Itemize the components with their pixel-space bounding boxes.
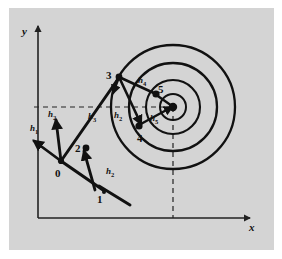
step-label-h2b: h2 — [114, 111, 122, 122]
path-1-to-2 — [84, 151, 95, 190]
step-label-h4: h4 — [138, 76, 146, 87]
point-label-1: 1 — [97, 194, 103, 205]
contour-center-dot — [169, 103, 177, 111]
point-label-2: 2 — [75, 143, 81, 154]
figure-root: y x 0 1 2 3 4 5 h1 h2 h3 h2 h2 h4 h5 — [0, 0, 282, 259]
step-label-h3: h3 — [88, 112, 96, 123]
point-label-0: 0 — [55, 168, 61, 179]
path-1-extension — [99, 186, 130, 205]
iterate-dot-4 — [135, 122, 142, 129]
optimization-contour-diagram — [0, 0, 282, 259]
point-label-3: 3 — [106, 70, 112, 81]
step-label-h2: h2 — [48, 110, 56, 121]
search-path-group — [34, 77, 172, 205]
step-label-h1-sub: 1 — [35, 128, 38, 135]
step-label-h5: h5 — [150, 114, 158, 125]
y-axis-label: y — [22, 26, 27, 37]
path-0-to-1 — [61, 161, 103, 190]
step-label-h1: h1 — [30, 124, 38, 135]
step-label-h2-sub: 2 — [53, 114, 56, 121]
point-label-5: 5 — [158, 84, 164, 95]
step-label-h5-sub: 5 — [155, 118, 158, 125]
step-label-h2b-sub: 2 — [119, 115, 122, 122]
iterate-dot-2 — [83, 145, 90, 152]
step-label-h3-sub: 3 — [93, 116, 96, 123]
step-label-h4-sub: 4 — [143, 80, 146, 87]
iterate-dot-3 — [116, 74, 123, 81]
iterate-dot-1 — [102, 190, 106, 194]
step-label-h2c-sub: 2 — [111, 171, 114, 178]
step-label-h2c: h2 — [106, 167, 114, 178]
point-label-4: 4 — [137, 133, 143, 144]
iterate-dot-0 — [58, 158, 64, 164]
x-axis-label: x — [249, 222, 255, 233]
path-0-up — [56, 120, 61, 161]
